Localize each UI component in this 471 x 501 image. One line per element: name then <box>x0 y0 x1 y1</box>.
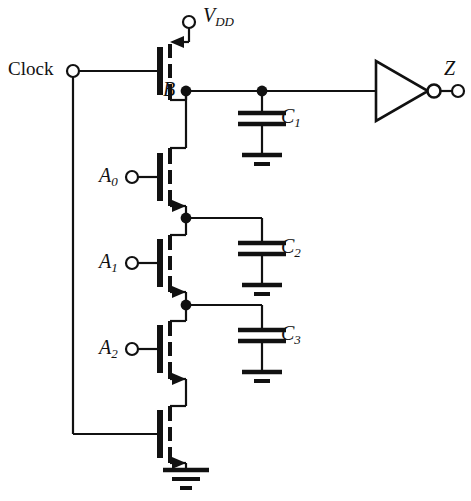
capacitor-c1[interactable] <box>238 113 286 124</box>
label-a0-sub: 0 <box>111 174 118 189</box>
transistor-nmos-a2[interactable] <box>160 321 186 385</box>
label-c3-sub: 3 <box>294 332 301 347</box>
inverter-triangle <box>376 61 428 121</box>
terminal-vdd[interactable] <box>183 16 195 28</box>
transistor-nmos-footer[interactable] <box>160 406 186 469</box>
label-a1-main: A <box>99 250 111 272</box>
terminal-z[interactable] <box>452 85 464 97</box>
capacitor-c2[interactable] <box>238 243 286 254</box>
junction-node-n1 <box>181 213 192 224</box>
label-z: Z <box>444 58 455 78</box>
label-vdd: VDD <box>203 5 234 25</box>
junction-c1-tap <box>257 86 268 97</box>
ground-c1 <box>242 155 282 164</box>
ground-c2 <box>242 285 282 294</box>
label-c2-sub: 2 <box>294 245 301 260</box>
circuit-schematic-svg <box>0 0 471 501</box>
label-a1-sub: 1 <box>111 260 118 275</box>
terminal-clock[interactable] <box>67 65 79 77</box>
terminal-stubs <box>138 177 160 349</box>
label-a2: A2 <box>99 337 118 357</box>
label-a0: A0 <box>99 165 118 185</box>
pmos-arrow <box>170 36 184 48</box>
label-node-b: B <box>163 79 175 99</box>
terminal-a2[interactable] <box>126 343 138 355</box>
label-a1: A1 <box>99 251 118 271</box>
nmos-a1-arrow <box>172 286 186 298</box>
label-clock: Clock <box>8 59 53 78</box>
label-a0-main: A <box>99 164 111 186</box>
terminal-a0[interactable] <box>126 171 138 183</box>
ground-footer <box>163 470 209 488</box>
ground-c3 <box>242 372 282 381</box>
inverter-bubble-icon <box>428 85 441 98</box>
junction-node-b <box>181 86 192 97</box>
label-a2-sub: 2 <box>111 346 118 361</box>
transistor-nmos-a0[interactable] <box>160 148 186 212</box>
terminal-circles <box>67 16 464 355</box>
terminal-a1[interactable] <box>126 257 138 269</box>
label-c3: C3 <box>281 323 301 343</box>
label-a2-main: A <box>99 336 111 358</box>
label-c2: C2 <box>281 236 301 256</box>
junction-dots <box>181 86 268 311</box>
label-vdd-sub: DD <box>215 14 234 29</box>
label-c1-main: C <box>281 105 294 127</box>
label-c3-main: C <box>281 322 294 344</box>
junction-node-n2 <box>181 300 192 311</box>
label-c1-sub: 1 <box>294 115 301 130</box>
nmos-a2-arrow <box>172 373 186 385</box>
circuit-diagram: VDD Clock A0 A1 A2 Z B C1 C2 C3 <box>0 0 471 501</box>
label-vdd-main: V <box>203 4 215 26</box>
nmos-footer-arrow <box>172 457 186 469</box>
inverter-symbol[interactable] <box>376 61 441 121</box>
capacitor-c3[interactable] <box>238 330 286 341</box>
nmos-a0-arrow <box>172 200 186 212</box>
label-c2-main: C <box>281 235 294 257</box>
transistor-nmos-a1[interactable] <box>160 235 186 298</box>
label-c1: C1 <box>281 106 301 126</box>
